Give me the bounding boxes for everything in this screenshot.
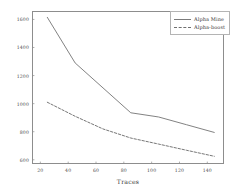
y-tick-label: 600 [20,157,29,162]
y-axis-ticks: 6008001000120014001600 [0,0,29,191]
legend-item[interactable]: Alpha Mine [174,15,225,23]
legend-line-icon [174,16,191,23]
y-tick-label: 1400 [17,45,29,50]
figure: 6008001000120014001600 20406080100120140… [0,0,242,191]
x-tick-label: 100 [147,168,156,173]
legend: Alpha Mine Alpha-boost [170,11,230,35]
x-axis-ticks: 20406080100120140 [0,168,242,178]
y-tick-label: 1600 [17,17,29,22]
legend-item-label: Alpha Mine [194,16,224,22]
x-tick-label: 120 [175,168,184,173]
legend-line-icon [174,24,191,31]
y-tick-label: 800 [20,129,29,134]
y-tick-label: 1000 [17,101,29,106]
legend-item[interactable]: Alpha-boost [174,23,225,31]
x-tick-label: 140 [203,168,212,173]
x-tick-label: 20 [37,168,43,173]
x-tick-label: 80 [121,168,127,173]
x-tick-label: 60 [93,168,99,173]
y-tick-label: 1200 [17,73,29,78]
x-tick-label: 40 [65,168,71,173]
x-axis-label: Traces [32,178,224,185]
legend-item-label: Alpha-boost [194,24,225,30]
